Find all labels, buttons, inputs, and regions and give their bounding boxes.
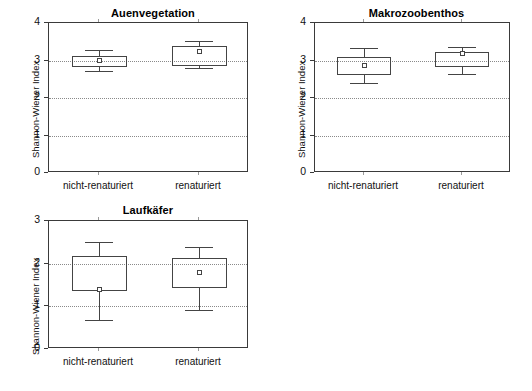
chart-panel-makrozoobenthos: Makrozoobenthos Shannon-Wiener Index 012… [266,0,532,196]
mean-marker [197,49,202,54]
chart-panel-laufkaefer: Laufkäfer Shannon-Wiener Index 0123nicht… [0,195,266,391]
grid-line [49,136,247,137]
plot-area [48,220,248,348]
whisker-upper [199,247,200,258]
x-tick-mark [198,348,199,351]
grid-line [49,306,247,307]
y-tick-mark [44,22,48,23]
grid-line [315,98,509,99]
y-tick-mark [310,60,314,61]
x-tick-mark [98,172,99,175]
y-tick-label: 4 [16,15,40,27]
x-tick-label: renaturiert [138,356,258,367]
whisker-lower [462,67,463,74]
mean-marker [197,270,202,275]
y-tick-label: 3 [16,53,40,65]
grid-line [49,98,247,99]
panel-title: Laufkäfer [48,204,248,216]
whisker-upper [364,48,365,57]
grid-line [315,136,509,137]
y-tick-mark [44,97,48,98]
whisker-cap-upper [448,47,476,48]
y-tick-label: 4 [282,15,306,27]
x-tick-mark-top [98,19,99,22]
whisker-lower [199,288,200,310]
y-tick-label: 0 [282,165,306,177]
whisker-cap-lower [85,71,114,72]
mean-marker [97,287,102,292]
y-tick-label: 1 [16,298,40,310]
x-tick-mark-top [98,217,99,220]
x-tick-mark [198,172,199,175]
y-tick-label: 0 [16,165,40,177]
whisker-cap-upper [85,50,114,51]
mean-marker [362,63,367,68]
box-iqr [72,256,127,292]
y-tick-label: 1 [282,128,306,140]
x-tick-mark-top [461,19,462,22]
chart-panel-auenvegetation: Auenvegetation Shannon-Wiener Index 0123… [0,0,266,196]
x-tick-label: renaturiert [138,180,258,191]
panel-title: Makrozoobenthos [314,7,519,19]
whisker-cap-lower [85,320,114,321]
y-tick-label: 2 [16,256,40,268]
y-tick-label: 2 [282,90,306,102]
x-tick-mark-top [198,217,199,220]
y-tick-mark [44,172,48,173]
whisker-cap-upper [350,48,378,49]
x-tick-mark [461,172,462,175]
y-tick-mark [310,135,314,136]
whisker-lower [364,75,365,83]
x-tick-mark-top [363,19,364,22]
plot-area [314,22,510,172]
plot-area [48,22,248,172]
y-tick-label: 3 [16,213,40,225]
whisker-upper [99,242,100,256]
y-tick-mark [310,172,314,173]
x-tick-mark-top [198,19,199,22]
whisker-cap-upper [185,247,214,248]
whisker-cap-upper [85,242,114,243]
y-tick-mark [44,305,48,306]
whisker-cap-lower [185,310,214,311]
whisker-cap-lower [350,83,378,84]
y-axis-label: Shannon-Wiener Index [296,61,307,158]
y-tick-mark [44,60,48,61]
y-tick-mark [44,135,48,136]
y-tick-mark [310,22,314,23]
x-tick-mark [363,172,364,175]
y-tick-label: 1 [16,128,40,140]
y-axis-label: Shannon-Wiener Index [30,61,41,158]
whisker-cap-upper [185,41,214,42]
y-tick-mark [44,263,48,264]
y-tick-label: 2 [16,90,40,102]
whisker-cap-lower [185,68,214,69]
whisker-lower [99,291,100,320]
y-tick-label: 3 [282,53,306,65]
panel-title: Auenvegetation [48,7,258,19]
y-tick-label: 0 [16,341,40,353]
mean-marker [97,58,102,63]
boxplot-figure: Auenvegetation Shannon-Wiener Index 0123… [0,0,532,391]
y-tick-mark [44,220,48,221]
whisker-cap-lower [448,74,476,75]
y-tick-mark [44,348,48,349]
y-tick-mark [310,97,314,98]
x-tick-mark [98,348,99,351]
mean-marker [460,51,465,56]
x-tick-label: renaturiert [401,180,521,191]
